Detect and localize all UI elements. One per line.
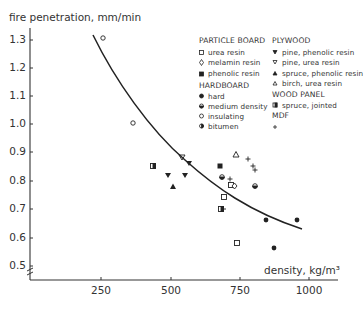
series-medium-density <box>220 175 258 189</box>
legend-filled-circle-icon <box>200 94 204 98</box>
series-mdf <box>228 157 258 182</box>
legend-filled-triangle-down-icon <box>273 51 277 55</box>
legend-item: spruce, phenolic resin <box>282 69 363 78</box>
legend-heading-particle-board: PARTICLE BOARD <box>199 36 265 45</box>
legend-filled-triangle-up-icon <box>273 72 277 76</box>
legend-filled-square-icon <box>200 72 204 76</box>
series-wood-panel <box>151 164 227 212</box>
y-tick-label: 0.7 <box>2 202 26 214</box>
legend-item: urea resin <box>208 48 245 57</box>
legend-heading-mdf: MDF <box>272 111 289 120</box>
legend-item: pine, phenolic resin <box>282 48 354 57</box>
series-birch-urea <box>233 152 239 158</box>
legend-open-square-icon <box>200 51 204 55</box>
legend-item: spruce, jointed <box>282 101 337 110</box>
y-tick-label: 1.2 <box>2 61 26 73</box>
y-tick-label: 0.9 <box>2 145 26 157</box>
x-axis-label: density, kg/m³ <box>264 264 340 276</box>
y-tick-label: 0.8 <box>2 174 26 186</box>
x-tick-label: 750 <box>220 284 260 296</box>
legend-heading-hardboard: HARDBOARD <box>199 81 249 90</box>
series-particle-phenolic <box>218 164 223 169</box>
y-axis-label: fire penetration, mm/min <box>9 11 141 23</box>
y-tick-label: 1.0 <box>2 117 26 129</box>
legend-item: medium density <box>208 102 268 111</box>
series-spruce-phenolic <box>170 184 176 190</box>
series-pine-phenolic <box>165 161 192 178</box>
legend-heading-plywood: PLYWOOD <box>272 36 310 45</box>
x-tick-label: 1000 <box>289 284 329 296</box>
legend-plus-icon <box>273 125 277 129</box>
legend-open-triangle-up-icon <box>273 82 277 86</box>
x-tick-label: 250 <box>81 284 121 296</box>
y-tick-label: 0.6 <box>2 231 26 243</box>
y-tick-label: 1.3 <box>2 33 26 45</box>
y-tick-label: 0.5 <box>2 259 26 271</box>
legend-item: phenolic resin <box>208 69 260 78</box>
legend-item: birch, urea resin <box>282 79 342 88</box>
legend-item: melamin resin <box>208 58 260 67</box>
legend-item: bitumen <box>208 122 239 131</box>
series-hard <box>264 218 300 251</box>
legend-heading-wood-panel: WOOD PANEL <box>272 90 325 99</box>
scatter-chart: fire penetration, mm/min density, kg/m³ … <box>0 0 363 310</box>
legend-item: pine, urea resin <box>282 58 340 67</box>
legend-item: hard <box>208 92 225 101</box>
y-tick-label: 1.1 <box>2 89 26 101</box>
legend-open-circle-icon <box>200 114 204 118</box>
legend-open-triangle-down-icon <box>273 61 277 65</box>
legend-diamond-icon <box>200 60 204 66</box>
x-tick-label: 500 <box>151 284 191 296</box>
legend-item: insulating <box>208 112 244 121</box>
trend-curve <box>93 35 302 229</box>
